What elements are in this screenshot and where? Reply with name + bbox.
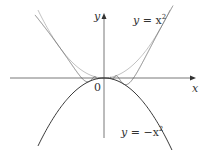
x-axis-label: x	[192, 83, 198, 94]
upper-curve-label: y = x2	[133, 14, 166, 26]
lower-parabola	[38, 78, 172, 150]
plot-area	[0, 0, 205, 150]
origin-label: 0	[94, 82, 101, 93]
y-axis-label: y	[94, 11, 100, 22]
chart: y x 0 y = x2 y = −x2	[0, 0, 205, 150]
y-axis-arrow-icon	[102, 13, 107, 19]
lower-curve-label: y = −x2	[121, 126, 163, 138]
x-axis-arrow-icon	[190, 76, 196, 81]
